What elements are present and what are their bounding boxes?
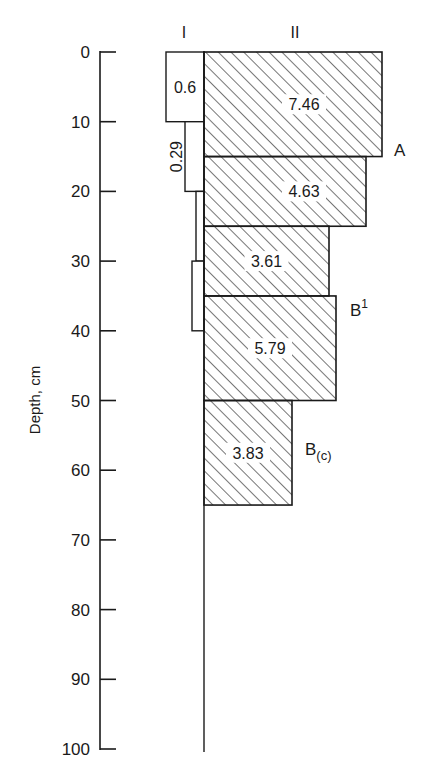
depth-tick-label: 100	[62, 740, 90, 759]
depth-axis: 0102030405060708090100	[62, 43, 116, 759]
series-II-bars: 7.464.633.615.793.83	[204, 52, 382, 505]
series-II-bar-label: 4.63	[288, 183, 319, 200]
series-I-bar	[185, 122, 204, 192]
depth-axis-title: Depth, cm	[26, 366, 43, 434]
column-labels: III	[182, 24, 300, 41]
depth-profile-chart: 0102030405060708090100 Depth, cm III 0.6…	[0, 0, 435, 775]
depth-tick-label: 0	[81, 43, 90, 62]
depth-tick-label: 70	[71, 531, 90, 550]
depth-tick-label: 90	[71, 670, 90, 689]
series-I-bar	[192, 261, 204, 331]
series-I-bar	[196, 191, 204, 261]
depth-tick-label: 50	[71, 392, 90, 411]
depth-tick-label: 80	[71, 601, 90, 620]
horizon-label: B1	[350, 297, 368, 320]
series-I-bars: 0.60.29	[166, 52, 204, 331]
horizon-label: B(c)	[305, 440, 332, 463]
column-label-II: II	[291, 24, 300, 41]
depth-tick-label: 40	[71, 322, 90, 341]
depth-tick-label: 60	[71, 461, 90, 480]
column-label-I: I	[182, 24, 186, 41]
series-II-bar-label: 7.46	[288, 96, 319, 113]
series-II-bar-label: 5.79	[254, 340, 285, 357]
depth-tick-label: 10	[71, 113, 90, 132]
series-II-bar-label: 3.61	[251, 253, 282, 270]
series-I-bar-label: 0.6	[174, 79, 196, 96]
depth-tick-label: 30	[71, 252, 90, 271]
horizon-label: A	[394, 141, 406, 160]
depth-tick-label: 20	[71, 182, 90, 201]
series-I-bar-label: 0.29	[168, 141, 185, 172]
series-II-bar-label: 3.83	[232, 445, 263, 462]
